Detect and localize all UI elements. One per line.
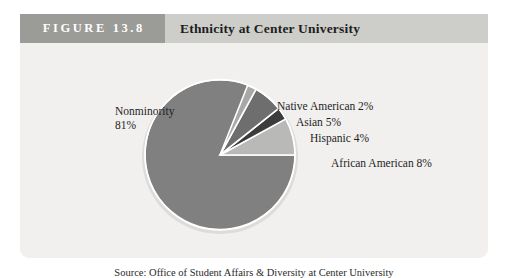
- pie-chart-svg: [20, 43, 488, 258]
- pie-label-asian: Asian 5%: [296, 116, 341, 130]
- figure-panel: FIGURE 13.8 Ethnicity at Center Universi…: [20, 14, 488, 258]
- figure-header-band: FIGURE 13.8 Ethnicity at Center Universi…: [20, 14, 488, 43]
- pie-label-nonminority-name: Nonminority: [115, 105, 174, 119]
- pie-label-native-american: Native American 2%: [277, 100, 373, 114]
- figure-title: Ethnicity at Center University: [180, 14, 360, 43]
- pie-chart: Nonminority 81% Native American 2% Asian…: [20, 43, 488, 258]
- pie-label-hispanic: Hispanic 4%: [310, 132, 369, 146]
- pie-label-african-american: African American 8%: [331, 157, 432, 171]
- figure-number-label: FIGURE 13.8: [40, 21, 145, 36]
- pie-label-nonminority: Nonminority 81%: [115, 105, 174, 132]
- figure-number-badge: FIGURE 13.8: [20, 14, 165, 43]
- pie-label-nonminority-value: 81%: [115, 119, 174, 133]
- figure-source-note: Source: Office of Student Affairs & Dive…: [20, 267, 488, 278]
